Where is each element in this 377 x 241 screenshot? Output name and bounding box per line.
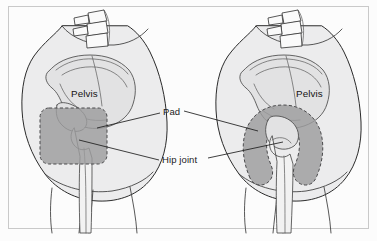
pelvis-label-left: Pelvis xyxy=(71,88,98,99)
hip-joint-label: Hip joint xyxy=(162,154,197,165)
hip-pad-diagram: Pelvis xyxy=(0,0,377,241)
pad-label: Pad xyxy=(163,106,180,117)
diagram-canvas: Pelvis xyxy=(0,0,377,241)
left-vertebra-3 xyxy=(86,33,108,48)
left-hip-pad xyxy=(40,108,107,164)
pelvis-label-right: Pelvis xyxy=(296,88,323,99)
right-vertebra-3 xyxy=(280,33,302,48)
